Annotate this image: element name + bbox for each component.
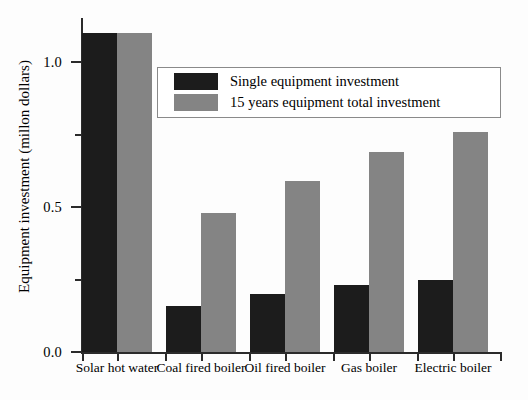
bar-oil-fired-boiler-single	[250, 294, 285, 352]
legend-entry-single: Single equipment investment	[174, 72, 399, 91]
x-tick-label: Oil fired boiler	[245, 360, 326, 376]
bar-oil-fired-boiler-total	[285, 181, 320, 352]
bar-gas-boiler-total	[369, 152, 404, 352]
y-tick-label: 0.0	[43, 344, 62, 361]
x-tick-label: Coal fired boiler	[156, 360, 245, 376]
x-tick-label: Electric boiler	[415, 360, 492, 376]
bar-electric-boiler-total	[453, 132, 488, 352]
legend-label-total: 15 years equipment total investment	[230, 94, 440, 111]
y-tick-minor	[75, 134, 82, 136]
gray-swatch-icon	[174, 94, 218, 111]
y-tick-minor	[75, 279, 82, 281]
dark-swatch-icon	[174, 73, 218, 90]
bar-solar-hot-water-total	[117, 33, 152, 352]
y-tick-major	[71, 61, 82, 63]
bar-gas-boiler-single	[334, 285, 369, 352]
bar-coal-fired-boiler-total	[201, 213, 236, 352]
legend-label-single: Single equipment investment	[230, 73, 399, 90]
x-tick-edge	[500, 352, 502, 361]
bar-coal-fired-boiler-single	[166, 306, 201, 352]
legend-entry-total: 15 years equipment total investment	[174, 93, 440, 112]
y-tick-major	[71, 206, 82, 208]
legend: Single equipment investment 15 years equ…	[157, 67, 501, 118]
chart-figure: Equipment investment (millon dollars) 0.…	[0, 0, 528, 400]
y-tick-label: 0.5	[43, 199, 62, 216]
bar-solar-hot-water-single	[82, 33, 117, 352]
y-tick-label: 1.0	[43, 54, 62, 71]
x-tick-boundary	[333, 352, 335, 361]
x-axis-line	[81, 352, 501, 354]
x-tick-label: Solar hot water	[76, 360, 158, 376]
y-axis-title: Equipment investment (millon dollars)	[16, 27, 33, 327]
y-tick-major	[71, 351, 82, 353]
bar-electric-boiler-single	[418, 280, 453, 353]
x-tick-label: Gas boiler	[341, 360, 397, 376]
